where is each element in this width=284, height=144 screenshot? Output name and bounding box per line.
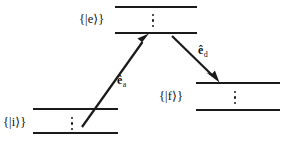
continuum-dots-e [152,14,154,27]
absorption-arrow-head [137,34,149,47]
absorption-unit-vector-symbol: ê [117,73,122,87]
emission-arrow [172,36,220,83]
continuum-dots-f [234,91,236,104]
manifold-label-i: {|i⟩} [3,116,26,129]
absorption-unit-vector-subscript: a [123,80,127,89]
emission-unit-vector-symbol: ê [198,43,203,57]
absorption-arrow [82,34,149,128]
absorption-arrow-label: êa [117,74,126,86]
diagram-canvas [0,0,284,144]
continuum-dots-i [71,117,73,130]
emission-unit-vector-subscript: d [204,50,208,59]
emission-arrow-label: êd [198,44,207,56]
absorption-arrow-shaft [82,42,143,127]
manifold-label-e: {|e⟩} [79,13,104,26]
energy-level-diagram: {|e⟩} {|f⟩} {|i⟩} êa êd [0,0,284,144]
manifold-label-f: {|f⟩} [159,90,183,103]
